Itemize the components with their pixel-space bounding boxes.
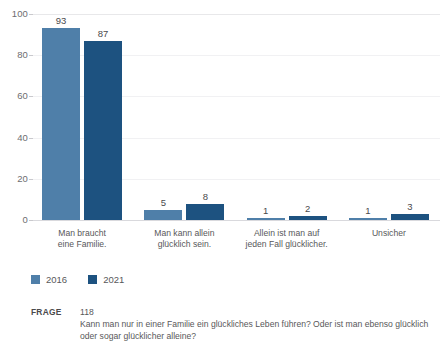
y-axis-tick [29,96,33,97]
bar-chart: 020406080100 9387581213 20162021 Man bra… [0,0,446,265]
y-axis-tick-label: 60 [2,90,28,101]
category-label-line: jeden Fall glücklicher. [236,239,338,250]
y-axis-tick [29,179,33,180]
bar-value-label: 87 [84,28,122,39]
legend-item-2021[interactable]: 2021 [88,274,124,285]
bar-2021-4[interactable] [391,214,429,220]
y-axis: 020406080100 [0,14,28,220]
bar-value-label: 93 [42,15,80,26]
footer-body: 118 Kann man nur in einer Familie ein gl… [80,307,441,342]
chart-footer: FRAGE 118 Kann man nur in einer Familie … [31,307,441,342]
footer-tag-label: FRAGE [31,307,80,317]
x-axis-category-label: Allein ist man aufjeden Fall glücklicher… [236,228,338,249]
category-label-line: glücklich sein. [133,239,235,250]
x-axis-category-label: Man kann alleinglücklich sein. [133,228,235,249]
category-label-line: Man braucht [31,228,133,239]
y-axis-tick-label: 100 [2,8,28,19]
bar-2016-1[interactable] [42,28,80,220]
legend-swatch-icon [31,275,40,284]
y-axis-tick-label: 0 [2,214,28,225]
legend-label: 2021 [103,274,124,285]
plot-area: 9387581213 [31,14,440,220]
chart-legend: 20162021 [31,274,145,285]
y-axis-tick [29,55,33,56]
bar-2016-4[interactable] [349,218,387,220]
category-label-line: Allein ist man auf [236,228,338,239]
bar-2021-1[interactable] [84,41,122,220]
bar-value-label: 1 [247,205,285,216]
bar-value-label: 8 [186,191,224,202]
x-axis-category-label: Man brauchteine Familie. [31,228,133,249]
category-label-line: eine Familie. [31,239,133,250]
y-axis-tick [29,220,33,221]
x-axis-category-label: Unsicher [338,228,440,239]
y-axis-tick-label: 20 [2,173,28,184]
bar-2021-3[interactable] [289,216,327,220]
bar-value-label: 5 [144,197,182,208]
bar-2021-2[interactable] [186,204,224,220]
y-axis-tick-label: 40 [2,132,28,143]
bar-2016-3[interactable] [247,218,285,220]
bar-value-label: 1 [349,205,387,216]
y-axis-tick [29,138,33,139]
gridline [31,14,440,15]
y-axis-tick [29,14,33,15]
footer-question-number: 118 [80,307,441,318]
y-axis-tick-label: 80 [2,49,28,60]
gridline [31,220,440,221]
legend-item-2016[interactable]: 2016 [31,274,67,285]
legend-label: 2016 [46,274,67,285]
category-label-line: Man kann allein [133,228,235,239]
bar-2016-2[interactable] [144,210,182,220]
footer-question-text: Kann man nur in einer Familie ein glückl… [80,319,441,342]
bar-value-label: 3 [391,201,429,212]
legend-swatch-icon [88,275,97,284]
category-label-line: Unsicher [338,228,440,239]
bar-value-label: 2 [289,203,327,214]
